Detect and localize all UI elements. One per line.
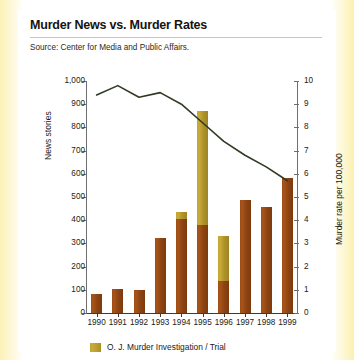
bar-news-stories <box>218 281 229 313</box>
bar-news-stories <box>91 294 102 313</box>
y-axis-left-tick-label: 100 <box>71 286 85 294</box>
page-title: Murder News vs. Murder Rates <box>30 18 207 32</box>
bar-news-stories <box>261 207 272 313</box>
y-axis-left-tick-label: 900 <box>71 100 85 108</box>
y-axis-left-title: News stories <box>43 111 53 160</box>
y-axis-left-tick-label: 300 <box>71 239 85 247</box>
y-axis-right-tick <box>294 174 299 175</box>
x-axis-tick <box>160 314 161 317</box>
y-axis-left-tick-label: 800 <box>71 123 85 131</box>
y-axis-right-tick-label: 8 <box>304 123 309 131</box>
x-axis-tick <box>224 314 225 317</box>
x-axis-tick-label: 1998 <box>256 319 277 327</box>
x-axis-tick <box>203 314 204 317</box>
x-axis-tick <box>97 314 98 317</box>
y-axis-right-tick <box>294 220 299 221</box>
chart-source: Source: Center for Media and Public Affa… <box>30 43 189 52</box>
title-divider <box>30 37 322 38</box>
y-axis-right-tick-label: 7 <box>304 147 309 155</box>
y-axis-right-tick <box>294 313 299 314</box>
chart-panel: Murder News vs. Murder Rates Source: Cen… <box>18 10 336 352</box>
y-axis-right-tick <box>294 151 299 152</box>
x-axis-tick <box>139 314 140 317</box>
y-axis-right-tick <box>294 104 299 105</box>
legend: O. J. Murder Investigation / Trial <box>90 342 226 352</box>
legend-swatch-oj-icon <box>90 343 101 352</box>
y-axis-right-tick-label: 9 <box>304 100 309 108</box>
x-axis-tick-label: 1999 <box>277 319 298 327</box>
y-axis-right-tick-label: 3 <box>304 239 309 247</box>
x-axis-tick <box>118 314 119 317</box>
x-axis-tick <box>181 314 182 317</box>
bar-oj-segment <box>218 236 229 280</box>
y-axis-right-tick-label: 0 <box>304 309 309 317</box>
y-axis-left-tick-label: 400 <box>71 216 85 224</box>
y-axis-right-title: Murder rate per 100,000 <box>334 153 344 245</box>
y-axis-right-tick <box>294 267 299 268</box>
bar-news-stories <box>176 219 187 313</box>
y-axis-right-tick <box>294 243 299 244</box>
y-axis-right-tick-label: 2 <box>304 263 309 271</box>
x-axis-tick <box>266 314 267 317</box>
x-axis-tick-label: 1995 <box>192 319 213 327</box>
x-axis-tick-label: 1992 <box>128 319 149 327</box>
legend-label-oj: O. J. Murder Investigation / Trial <box>107 342 226 352</box>
plot-area: 01002003004005006007008009001,000 012345… <box>86 81 298 313</box>
y-axis-left-tick-label: 500 <box>71 193 85 201</box>
bar-news-stories <box>197 225 208 313</box>
y-axis-left-tick-label: 600 <box>71 170 85 178</box>
y-axis-right-tick-label: 10 <box>304 77 313 85</box>
y-axis-left-tick-label: 700 <box>71 147 85 155</box>
bar-news-stories <box>282 178 293 313</box>
y-axis-left-tick-label: 1,000 <box>65 77 86 85</box>
y-axis-right-tick <box>294 81 299 82</box>
y-axis-right-tick <box>294 127 299 128</box>
bar-news-stories <box>134 290 145 313</box>
x-axis-tick-label: 1996 <box>213 319 234 327</box>
bar-news-stories <box>240 200 251 313</box>
x-axis-tick-label: 1993 <box>150 319 171 327</box>
bar-oj-segment <box>176 212 187 219</box>
x-axis-tick-label: 1994 <box>171 319 192 327</box>
y-axis-right-tick <box>294 290 299 291</box>
y-axis-right-tick-label: 4 <box>304 216 309 224</box>
bar-news-stories <box>112 289 123 313</box>
x-axis-tick <box>245 314 246 317</box>
x-axis-tick-label: 1997 <box>234 319 255 327</box>
y-axis-right-tick-label: 6 <box>304 170 309 178</box>
x-axis-tick-label: 1990 <box>86 319 107 327</box>
bar-news-stories <box>155 238 166 313</box>
bar-oj-segment <box>197 111 208 225</box>
chart-page: Murder News vs. Murder Rates Source: Cen… <box>0 0 354 360</box>
y-axis-right-tick-label: 1 <box>304 286 309 294</box>
y-axis-right-tick-label: 5 <box>304 193 309 201</box>
x-axis-tick <box>287 314 288 317</box>
y-axis-left-tick-label: 200 <box>71 263 85 271</box>
y-axis-left-tick-label: 0 <box>80 309 85 317</box>
y-axis-right-tick <box>294 197 299 198</box>
x-axis-tick-label: 1991 <box>107 319 128 327</box>
